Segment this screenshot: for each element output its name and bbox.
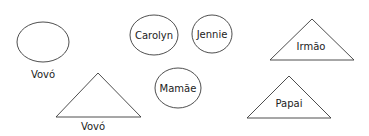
node-label: Vovó [31,69,55,80]
node-carolyn: Carolyn [130,15,178,55]
node-jennie: Jennie [192,15,232,53]
node-mamae: Mamãe [155,68,201,108]
family-diagram: Vovó Carolyn Jennie Irmão Vovó Mamãe Pap… [0,0,369,136]
node-label: Jennie [196,29,228,40]
node-papai: Papai [247,76,331,118]
node-irmao: Irmão [270,19,354,60]
node-label: Vovó [81,121,105,132]
node-label: Papai [276,98,303,109]
triangle-shape [56,73,141,117]
node-label: Carolyn [135,30,173,41]
node-label: Mamãe [160,83,197,94]
triangle-shape [247,76,331,118]
node-label: Irmão [297,41,326,52]
ellipse-shape [17,22,69,62]
node-vovo-ellipse: Vovó [17,22,69,80]
node-vovo-triangle: Vovó [56,73,141,132]
triangle-shape [270,19,354,60]
